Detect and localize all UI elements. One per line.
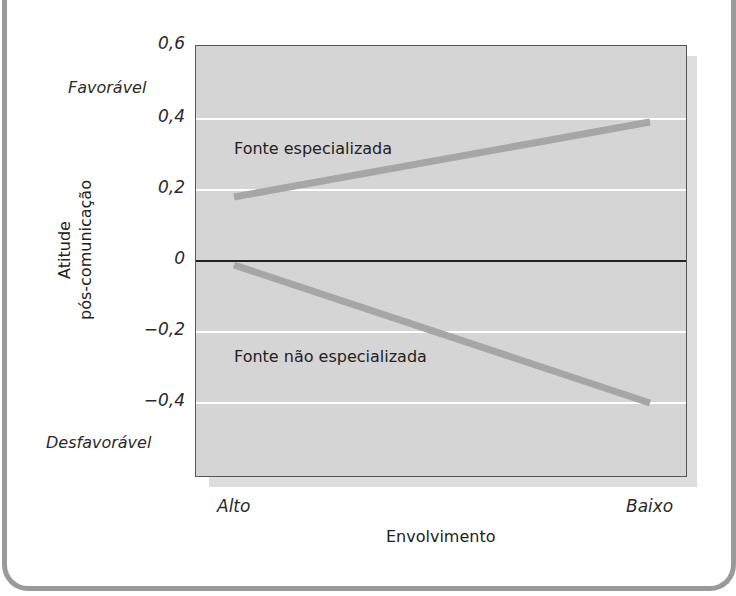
- y-tick-minus-0.4: −0,4: [105, 390, 185, 410]
- x-axis-label: Envolvimento: [386, 527, 496, 546]
- y-tick-0.4: 0,4: [105, 106, 185, 126]
- y-tick-0.2: 0,2: [105, 177, 185, 197]
- series-label-especializada: Fonte especializada: [234, 139, 392, 158]
- y-axis-label: Atitude pós-comunicação: [54, 180, 96, 320]
- series-line-nao-especializada: [234, 265, 650, 403]
- series-label-nao-especializada: Fonte não especializada: [234, 347, 427, 366]
- y-tick-0.6: 0,6: [105, 33, 185, 53]
- x-tick-baixo: Baixo: [626, 496, 673, 516]
- unfavorable-label: Desfavorável: [46, 433, 151, 452]
- series-line-especializada: [234, 122, 650, 197]
- y-axis-label-line1: Atitude: [54, 180, 75, 320]
- y-tick-0: 0: [105, 248, 185, 268]
- favorable-label: Favorável: [68, 78, 146, 97]
- y-tick-minus-0.2: −0,2: [105, 319, 185, 339]
- x-tick-alto: Alto: [217, 496, 250, 516]
- y-axis-label-line2: pós-comunicação: [75, 180, 96, 320]
